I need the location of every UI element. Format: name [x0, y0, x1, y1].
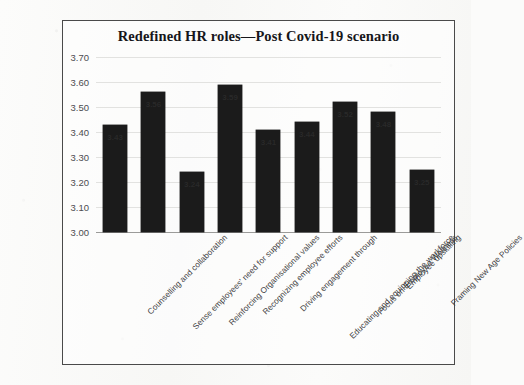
bar-value-label: 3.25 — [414, 178, 430, 187]
y-axis-tick-label: 3.70 — [71, 52, 90, 63]
x-axis-category-label: Framing New Age Policies — [449, 233, 524, 308]
bar-value-label: 3.44 — [299, 130, 315, 139]
bar-value-label: 3.59 — [222, 93, 238, 102]
bar[interactable]: 3.24 — [180, 172, 204, 232]
bar[interactable]: 3.56 — [141, 92, 165, 232]
y-axis-tick-label: 3.40 — [71, 127, 90, 138]
bar-value-label: 3.24 — [184, 180, 200, 189]
y-axis-tick-label: 3.00 — [71, 227, 90, 238]
bar[interactable]: 3.48 — [371, 112, 395, 232]
y-axis-tick-label: 3.50 — [71, 102, 90, 113]
bar-value-label: 3.41 — [261, 138, 277, 147]
bar-slot: 3.48 — [364, 57, 402, 232]
bar[interactable]: 3.25 — [410, 170, 434, 233]
bar-value-label: 3.52 — [337, 110, 353, 119]
bar-series: 3.433.563.243.593.413.443.523.483.25 — [96, 57, 441, 232]
y-axis-tick-label: 3.30 — [71, 152, 90, 163]
bar-slot: 3.59 — [211, 57, 249, 232]
bar-slot: 3.44 — [288, 57, 326, 232]
bar-value-label: 3.56 — [146, 100, 162, 109]
bar-slot: 3.43 — [96, 57, 134, 232]
bar-slot: 3.25 — [403, 57, 441, 232]
bar[interactable]: 3.41 — [256, 130, 280, 233]
bar-slot: 3.41 — [249, 57, 287, 232]
bar-value-label: 3.43 — [107, 133, 123, 142]
bar-slot: 3.52 — [326, 57, 364, 232]
bar[interactable]: 3.44 — [295, 122, 319, 232]
bar-value-label: 3.48 — [376, 120, 392, 129]
bar[interactable]: 3.52 — [333, 102, 357, 232]
y-axis-tick-label: 3.20 — [71, 177, 90, 188]
chart-title: Redefined HR roles—Post Covid-19 scenari… — [63, 28, 454, 45]
bar[interactable]: 3.59 — [218, 85, 242, 233]
bar-slot: 3.24 — [173, 57, 211, 232]
bar-slot: 3.56 — [134, 57, 172, 232]
plot-area: 3.703.603.503.403.303.203.103.00 3.433.5… — [96, 57, 441, 232]
bar[interactable]: 3.43 — [103, 125, 127, 233]
y-axis-tick-label: 3.10 — [71, 202, 90, 213]
y-axis-tick-label: 3.60 — [71, 77, 90, 88]
x-axis-category-labels: Counselling and collaborationSense emplo… — [95, 233, 440, 363]
